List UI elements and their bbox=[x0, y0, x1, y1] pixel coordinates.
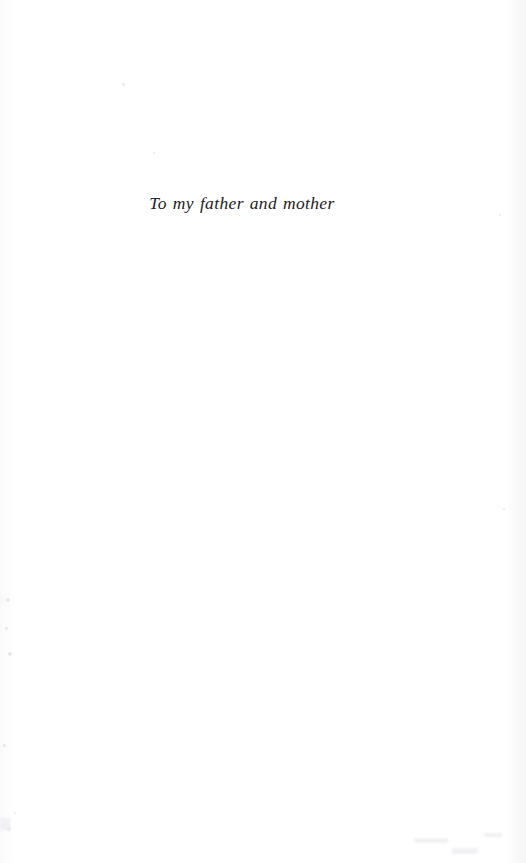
scan-speck bbox=[6, 826, 11, 831]
scan-edge-right bbox=[506, 0, 526, 863]
scan-speck bbox=[122, 83, 125, 86]
dedication-page: To my father and mother bbox=[0, 0, 526, 863]
scan-speck bbox=[8, 652, 12, 656]
scan-edge-left bbox=[0, 0, 14, 863]
scan-smudge bbox=[414, 838, 448, 843]
scan-speck bbox=[503, 508, 505, 510]
dedication-block: To my father and mother bbox=[0, 193, 526, 215]
scan-speck bbox=[5, 627, 8, 630]
scan-speck bbox=[14, 812, 16, 814]
dedication-text: To my father and mother bbox=[149, 193, 334, 215]
scan-speck bbox=[3, 744, 6, 747]
scan-smudge bbox=[452, 848, 478, 854]
scan-smudge bbox=[0, 818, 10, 830]
scan-speck bbox=[6, 598, 10, 602]
scan-smudge bbox=[484, 833, 502, 837]
scan-speck bbox=[153, 152, 155, 154]
